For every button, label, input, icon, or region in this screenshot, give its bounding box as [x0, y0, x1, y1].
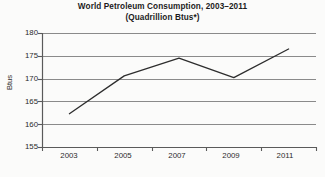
y-axis-tick-marks [38, 34, 42, 148]
data-series-line [69, 49, 288, 114]
chart-container: World Petroleum Consumption, 2003–2011 (… [0, 0, 325, 177]
plot-area [0, 0, 325, 177]
gridlines [42, 34, 316, 148]
